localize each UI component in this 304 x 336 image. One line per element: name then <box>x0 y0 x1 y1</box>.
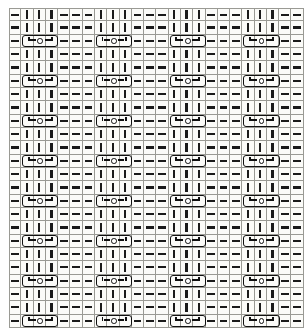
cable-stitch-cell <box>267 315 279 328</box>
chart-row <box>9 168 304 181</box>
knit-stitch-cell <box>34 208 46 221</box>
cable-stitch-cell <box>242 155 254 168</box>
cable-stitch-cell <box>169 195 181 208</box>
cable-stitch-cell <box>242 115 254 128</box>
chart-row <box>9 35 304 48</box>
knit-stitch-cell <box>120 61 132 74</box>
cable-stitch-cell <box>95 155 107 168</box>
purl-stitch-cell <box>279 75 291 88</box>
purl-stitch-cell <box>230 155 242 168</box>
purl-stitch-cell <box>230 208 242 221</box>
purl-stitch-cell <box>279 128 291 141</box>
cable-stitch-cell <box>267 75 279 88</box>
purl-stitch-cell <box>291 208 303 221</box>
knit-stitch-cell <box>255 21 267 34</box>
purl-stitch-cell <box>230 248 242 261</box>
purl-stitch-cell <box>144 261 156 274</box>
chart-row <box>9 115 304 128</box>
cable-stitch-cell <box>107 115 119 128</box>
purl-stitch-cell <box>218 88 230 101</box>
knit-stitch-cell <box>181 61 193 74</box>
cable-stitch-cell <box>107 235 119 248</box>
knit-stitch-cell <box>21 248 33 261</box>
chart-row <box>9 181 304 194</box>
chart-row <box>9 155 304 168</box>
purl-stitch-cell <box>206 128 218 141</box>
knit-stitch-cell <box>21 61 33 74</box>
knit-stitch-cell <box>169 48 181 61</box>
knit-stitch-cell <box>255 88 267 101</box>
purl-stitch-cell <box>132 235 144 248</box>
knit-stitch-cell <box>242 288 254 301</box>
purl-stitch-cell <box>70 288 82 301</box>
cable-stitch-cell <box>21 315 33 328</box>
cable-stitch-cell <box>21 275 33 288</box>
knit-stitch-cell <box>181 181 193 194</box>
purl-stitch-cell <box>83 275 95 288</box>
purl-stitch-cell <box>279 115 291 128</box>
knit-stitch-cell <box>242 61 254 74</box>
knit-stitch-cell <box>242 141 254 154</box>
purl-stitch-cell <box>156 235 168 248</box>
cable-stitch-cell <box>95 315 107 328</box>
knit-stitch-cell <box>34 181 46 194</box>
knit-stitch-cell <box>193 301 205 314</box>
purl-stitch-cell <box>279 195 291 208</box>
cable-stitch-cell <box>242 275 254 288</box>
knit-stitch-cell <box>21 261 33 274</box>
purl-stitch-cell <box>83 221 95 234</box>
knit-stitch-cell <box>107 21 119 34</box>
knit-stitch-cell <box>34 288 46 301</box>
knit-stitch-cell <box>95 181 107 194</box>
purl-stitch-cell <box>230 75 242 88</box>
purl-stitch-cell <box>58 235 70 248</box>
purl-stitch-cell <box>291 275 303 288</box>
purl-stitch-cell <box>206 288 218 301</box>
purl-stitch-cell <box>156 61 168 74</box>
purl-stitch-cell <box>156 101 168 114</box>
knit-stitch-cell <box>181 101 193 114</box>
knit-stitch-cell <box>46 48 58 61</box>
purl-stitch-cell <box>206 261 218 274</box>
purl-stitch-cell <box>156 288 168 301</box>
purl-stitch-cell <box>291 21 303 34</box>
knit-stitch-cell <box>120 301 132 314</box>
purl-stitch-cell <box>83 48 95 61</box>
purl-stitch-cell <box>230 301 242 314</box>
purl-stitch-cell <box>279 61 291 74</box>
purl-stitch-cell <box>83 235 95 248</box>
purl-stitch-cell <box>230 261 242 274</box>
purl-stitch-cell <box>58 61 70 74</box>
purl-stitch-cell <box>9 21 21 34</box>
knit-stitch-cell <box>255 288 267 301</box>
purl-stitch-cell <box>58 301 70 314</box>
knit-stitch-cell <box>242 181 254 194</box>
knit-stitch-cell <box>181 48 193 61</box>
purl-stitch-cell <box>279 141 291 154</box>
purl-stitch-cell <box>132 88 144 101</box>
purl-stitch-cell <box>132 248 144 261</box>
knit-stitch-cell <box>120 181 132 194</box>
purl-stitch-cell <box>291 155 303 168</box>
knit-stitch-cell <box>181 21 193 34</box>
knit-stitch-cell <box>95 61 107 74</box>
knit-stitch-cell <box>107 248 119 261</box>
chart-row <box>9 88 304 101</box>
knit-stitch-cell <box>21 101 33 114</box>
knit-stitch-cell <box>267 208 279 221</box>
purl-stitch-cell <box>279 35 291 48</box>
purl-stitch-cell <box>291 195 303 208</box>
purl-stitch-cell <box>58 141 70 154</box>
purl-stitch-cell <box>291 61 303 74</box>
cable-stitch-cell <box>242 195 254 208</box>
purl-stitch-cell <box>132 101 144 114</box>
cable-stitch-cell <box>107 75 119 88</box>
knit-stitch-cell <box>267 261 279 274</box>
knit-stitch-cell <box>169 88 181 101</box>
purl-stitch-cell <box>279 21 291 34</box>
knit-stitch-cell <box>95 261 107 274</box>
purl-stitch-cell <box>279 248 291 261</box>
purl-stitch-cell <box>206 235 218 248</box>
purl-stitch-cell <box>279 208 291 221</box>
purl-stitch-cell <box>58 101 70 114</box>
